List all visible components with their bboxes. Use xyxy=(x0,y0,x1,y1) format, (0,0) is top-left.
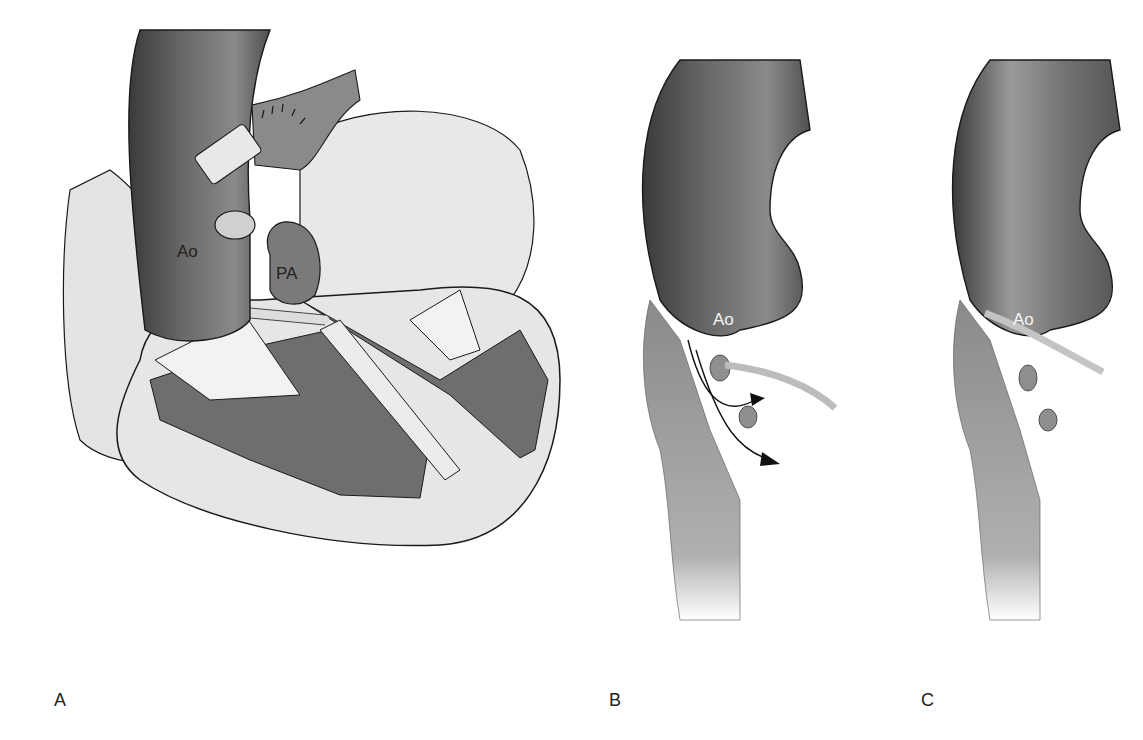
panel-a-heart xyxy=(63,20,560,546)
label-aorta-a: Ao xyxy=(177,242,198,262)
panel-b-aorta xyxy=(643,50,835,620)
panel-label-c: C xyxy=(921,690,934,711)
figure-canvas xyxy=(0,0,1143,740)
panel-c-aorta xyxy=(953,50,1130,620)
label-aorta-b: Ao xyxy=(713,310,734,330)
label-pulmonary-artery-a: PA xyxy=(276,264,297,284)
label-aorta-c: Ao xyxy=(1013,310,1034,330)
panel-label-b: B xyxy=(609,690,621,711)
panel-label-a: A xyxy=(54,690,66,711)
